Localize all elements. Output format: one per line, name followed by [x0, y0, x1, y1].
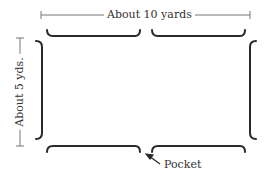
bottom-right-wall — [152, 146, 245, 152]
right-wall — [250, 41, 256, 139]
bottom-left-wall — [47, 146, 140, 152]
width-label: About 10 yards — [104, 9, 195, 21]
pocket-label: Pocket — [164, 159, 201, 171]
field-diagram — [0, 0, 268, 181]
pocket-arrow — [146, 154, 160, 164]
left-wall — [36, 41, 42, 139]
height-label: About 5 yds. — [14, 54, 26, 130]
top-left-wall — [47, 30, 140, 36]
top-right-wall — [152, 30, 245, 36]
